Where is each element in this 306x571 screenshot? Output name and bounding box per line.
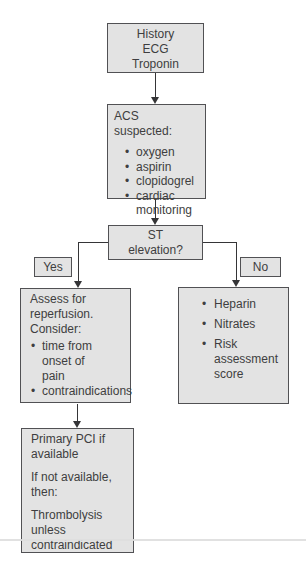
pci-paragraph-if-not-available: If not available, then:: [31, 470, 127, 500]
connector-st-yes-vertical: [78, 242, 79, 282]
bullet-clopidogrel: clopidogrel: [124, 174, 199, 189]
bullet-oxygen: oxygen: [124, 145, 199, 160]
node-history-ecg-troponin: History ECG Troponin: [107, 23, 204, 73]
connector-st-yes-horizontal: [78, 242, 108, 243]
bullet-cardiac-monitoring: cardiac monitoring: [124, 189, 199, 218]
node-acs-suspected: ACS suspected: oxygen aspirin clopidogre…: [107, 104, 206, 199]
arrowhead-history-acs: [151, 97, 159, 104]
bullet-time-from-onset: time from onset of pain: [30, 339, 124, 384]
assess-intro-text: Assess for reperfusion. Consider:: [30, 292, 124, 337]
pci-paragraph-thrombolysis: Thrombolysis unless contraindicated: [31, 508, 127, 553]
assess-bullet-list: time from onset of pain contraindication…: [30, 339, 124, 399]
connector-assess-pci: [77, 404, 78, 422]
bullet-contraindications: contraindications: [30, 384, 124, 399]
connector-st-no-horizontal: [203, 242, 237, 243]
acs-bullet-list: oxygen aspirin clopidogrel cardiac monit…: [114, 145, 199, 218]
node-assess-reperfusion: Assess for reperfusion. Consider: time f…: [20, 288, 131, 403]
acs-flowchart: History ECG Troponin ACS suspected: oxyg…: [0, 0, 306, 571]
node-nstemi-treatment: Heparin Nitrates Risk assessment score: [178, 287, 289, 404]
node-primary-pci: Primary PCI if available If not availabl…: [21, 428, 134, 553]
node-st-elevation-question: ST elevation?: [108, 225, 203, 260]
connector-st-no-vertical: [236, 242, 237, 281]
bullet-risk-assessment-score: Risk assessment score: [201, 337, 282, 382]
pci-paragraph-available: Primary PCI if available: [31, 432, 127, 462]
arrowhead-assess-pci: [73, 421, 81, 428]
label-no: No: [240, 257, 281, 277]
node-acs-title: ACS suspected:: [114, 109, 199, 139]
arrowhead-acs-st: [151, 218, 159, 225]
bullet-heparin: Heparin: [201, 297, 282, 312]
page-rule-line: [0, 539, 306, 541]
arrowhead-yes-branch: [74, 281, 82, 288]
treatment-bullet-list: Heparin Nitrates Risk assessment score: [201, 297, 282, 382]
bullet-nitrates: Nitrates: [201, 317, 282, 332]
label-yes: Yes: [34, 257, 72, 277]
bullet-aspirin: aspirin: [124, 160, 199, 175]
arrowhead-no-branch: [232, 280, 240, 287]
connector-history-acs: [155, 73, 156, 99]
